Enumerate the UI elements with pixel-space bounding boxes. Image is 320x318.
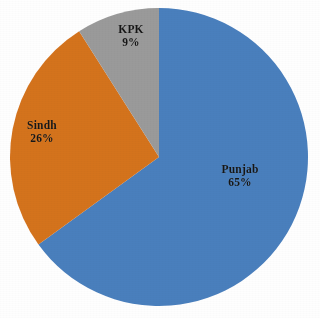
pie-label-kpk: KPK 9%	[100, 23, 162, 49]
pie-label-kpk-name: KPK	[100, 23, 162, 36]
pie-label-punjab-value: 65%	[200, 176, 280, 189]
pie-label-punjab: Punjab 65%	[200, 163, 280, 189]
pie-label-sindh: Sindh 26%	[10, 119, 74, 145]
pie-label-sindh-name: Sindh	[10, 119, 74, 132]
pie-chart-figure: Punjab 65% Sindh 26% KPK 9%	[0, 0, 320, 318]
pie-label-sindh-value: 26%	[10, 132, 74, 145]
pie-label-kpk-value: 9%	[100, 36, 162, 49]
pie-label-punjab-name: Punjab	[200, 163, 280, 176]
